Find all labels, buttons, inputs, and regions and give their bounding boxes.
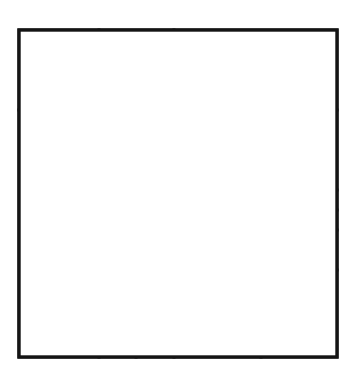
outer-square bbox=[19, 30, 337, 357]
dissection-figure bbox=[0, 0, 356, 369]
dissection-svg bbox=[0, 0, 356, 369]
